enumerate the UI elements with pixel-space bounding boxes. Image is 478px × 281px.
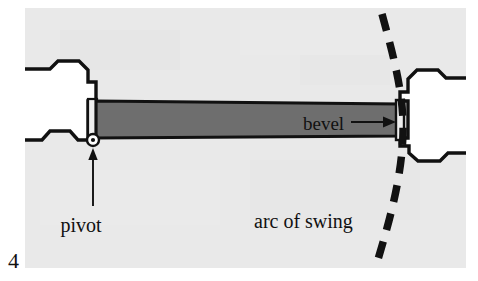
pivot-center-dot	[91, 138, 95, 142]
arc-of-swing-label: arc of swing	[254, 210, 353, 233]
pivot-door-plan-diagram: bevel pivot arc of swing 4	[0, 0, 478, 281]
pivot-pin	[87, 134, 99, 146]
bevel-label: bevel	[303, 113, 344, 134]
left-jamb-outline	[25, 61, 96, 140]
figure-container: bevel pivot arc of swing 4	[0, 0, 478, 281]
figure-number: 4	[8, 248, 19, 273]
pivot-label: pivot	[60, 214, 102, 237]
door-leaf-body	[96, 101, 400, 138]
door-leaf	[88, 99, 404, 141]
right-jamb	[400, 70, 466, 161]
left-jamb	[25, 61, 96, 140]
right-jamb-outline	[400, 70, 466, 161]
